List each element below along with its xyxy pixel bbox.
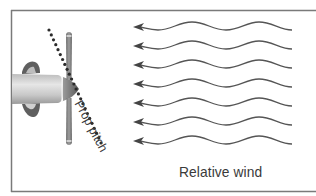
- fuselage-body: [12, 74, 63, 104]
- pitch-dot: [47, 28, 50, 31]
- pitch-dot: [72, 82, 75, 85]
- wind-line: [138, 136, 292, 144]
- pitch-dot: [52, 38, 55, 41]
- pitch-dot: [56, 48, 59, 51]
- pitch-dot: [66, 68, 69, 71]
- relative-wind-arrows: [133, 22, 292, 145]
- pitch-dot: [63, 63, 66, 66]
- pitch-dot: [75, 87, 78, 90]
- diagram-canvas: [0, 0, 316, 196]
- wind-line: [138, 117, 292, 125]
- pitch-dot: [68, 73, 71, 76]
- pitch-dot: [61, 58, 64, 61]
- pitch-dot: [77, 92, 80, 95]
- relative-wind-label: Relative wind: [179, 163, 262, 180]
- pitch-dot: [59, 53, 62, 56]
- wind-line: [138, 98, 292, 106]
- pitch-dot: [70, 78, 73, 81]
- wind-line: [138, 41, 292, 49]
- pitch-dot: [54, 43, 57, 46]
- wind-line: [138, 60, 292, 68]
- diagram: Prop pitch Relative wind: [0, 0, 316, 196]
- pitch-dot: [50, 33, 53, 36]
- wind-line: [138, 79, 292, 87]
- wind-line: [138, 22, 292, 30]
